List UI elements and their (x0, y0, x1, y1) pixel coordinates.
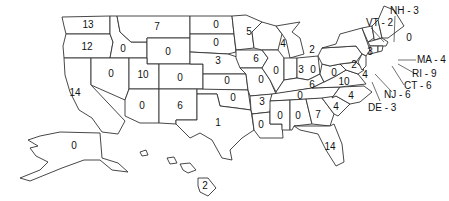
label-wv: 0 (331, 67, 337, 78)
label-ok: 0 (230, 92, 236, 103)
state-in (284, 58, 297, 80)
label-ks: 0 (224, 75, 230, 86)
label-ca: 14 (69, 87, 81, 98)
label-wy: 0 (165, 46, 171, 57)
state-ri (378, 46, 383, 52)
label-tn: 0 (297, 90, 303, 101)
callout-nh: NH - 3 (390, 5, 419, 16)
state-nd (190, 16, 234, 34)
label-al: 0 (295, 110, 301, 121)
label-id: 0 (120, 43, 126, 54)
callout-nj: NJ - 6 (384, 89, 411, 100)
label-ia: 6 (253, 53, 259, 64)
label-va: 10 (338, 76, 350, 87)
label-la: 0 (258, 119, 264, 130)
label-ak: 0 (71, 140, 77, 151)
leader-ct (392, 66, 404, 85)
label-wi: 4 (280, 38, 286, 49)
label-mi: 2 (309, 44, 315, 55)
state-fl (294, 124, 344, 166)
label-co: 0 (177, 72, 183, 83)
callout-vt: VT - 2 (366, 17, 393, 28)
label-sc: 4 (333, 101, 339, 112)
label-az: 0 (139, 100, 145, 111)
label-or: 12 (81, 41, 93, 52)
label-fl: 14 (324, 141, 336, 152)
label-ky: 6 (309, 79, 315, 90)
label-nc: 4 (348, 90, 354, 101)
us-map: 13 12 14 0 0 7 0 10 0 0 6 0 0 3 0 0 1 5 … (0, 0, 449, 201)
leader-de (372, 82, 380, 101)
callout-ma: MA - 4 (417, 54, 446, 65)
state-hi-island-3 (180, 163, 196, 173)
label-sd: 0 (213, 37, 219, 48)
label-me: 0 (406, 32, 412, 43)
label-in: 3 (298, 64, 304, 75)
label-nd: 0 (213, 19, 219, 30)
state-hi-island-1 (140, 150, 148, 156)
label-mt: 7 (154, 21, 160, 32)
label-tx: 1 (215, 117, 221, 128)
label-nm: 6 (177, 100, 183, 111)
label-hi: 2 (202, 180, 208, 191)
callout-ri: RI - 9 (412, 68, 437, 79)
label-pa: 2 (351, 59, 357, 70)
label-md: 4 (362, 69, 368, 80)
label-il: 0 (273, 65, 279, 76)
callout-de: DE - 3 (368, 102, 397, 113)
state-hi-island-2 (167, 157, 177, 164)
label-ut: 10 (137, 69, 149, 80)
label-nv: 0 (108, 68, 114, 79)
label-mo: 0 (258, 74, 264, 85)
label-ny: 3 (367, 46, 373, 57)
label-ga: 7 (315, 109, 321, 120)
label-oh: 0 (310, 64, 316, 75)
label-mn: 5 (246, 26, 252, 37)
label-wa: 13 (82, 19, 94, 30)
label-ne: 3 (215, 55, 221, 66)
label-ms: 0 (277, 110, 283, 121)
label-ar: 3 (259, 96, 265, 107)
